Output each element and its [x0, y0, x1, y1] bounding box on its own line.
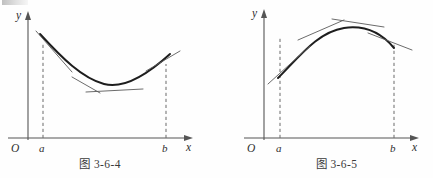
concave-curve — [278, 27, 394, 78]
tick-label-b: b — [162, 142, 168, 154]
tangent-line-at-b — [368, 33, 412, 50]
figure-3-6-4-plot: y x O a b — [0, 0, 216, 155]
figure-page: y x O a b 图 3-6-4 — [0, 0, 433, 178]
origin-label: O — [247, 142, 256, 154]
figure-3-6-5: y x O a b 图 3-6-5 — [216, 0, 433, 178]
tangent-line-at-b — [146, 51, 180, 71]
tangent-line-right-mid — [332, 19, 384, 27]
y-axis-label: y — [15, 9, 22, 22]
tangent-line-left-mid — [72, 77, 100, 93]
figure-caption-left: 图 3-6-4 — [0, 155, 208, 171]
tick-label-b: b — [390, 142, 396, 154]
tangent-line-at-a — [36, 31, 72, 72]
figure-3-6-4: y x O a b 图 3-6-4 — [0, 0, 216, 178]
tangent-line-at-a — [268, 46, 310, 84]
origin-label: O — [11, 142, 20, 154]
y-axis — [261, 9, 267, 140]
convex-curve — [40, 34, 170, 85]
x-axis — [244, 135, 419, 141]
y-axis — [25, 11, 31, 140]
x-axis-label: x — [185, 141, 192, 153]
x-axis-label: x — [411, 141, 418, 153]
figure-caption-right: 图 3-6-5 — [228, 155, 433, 171]
tick-label-a: a — [39, 142, 45, 154]
tick-label-a: a — [276, 142, 282, 154]
y-axis-label: y — [251, 7, 258, 20]
figure-3-6-5-plot: y x O a b — [216, 0, 433, 155]
x-axis — [8, 135, 193, 141]
